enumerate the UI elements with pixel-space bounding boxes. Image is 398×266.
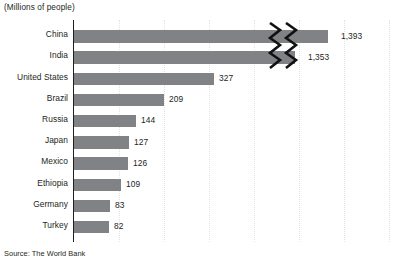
population-bar-chart: (Millions of people) China1,393India1,35…	[0, 0, 398, 266]
bar-row: Japan127	[0, 132, 398, 153]
bar	[74, 221, 109, 233]
bar	[74, 136, 129, 148]
bar	[74, 115, 136, 127]
bar-row: United States327	[0, 68, 398, 89]
bar-value-label: 209	[169, 94, 183, 104]
bar-value-label: 144	[141, 115, 155, 125]
category-label: China	[0, 29, 68, 39]
category-label: India	[0, 50, 68, 60]
chart-subtitle: (Millions of people)	[4, 3, 75, 12]
category-label: Mexico	[0, 156, 68, 166]
bar-value-label: 82	[114, 221, 123, 231]
bar-row: Germany83	[0, 196, 398, 217]
bar	[74, 51, 295, 63]
bar-value-label: 127	[134, 137, 148, 147]
bar-row: Turkey82	[0, 217, 398, 238]
bar	[74, 30, 328, 42]
bar	[74, 157, 128, 169]
bar-row: India1,353	[0, 47, 398, 68]
bar	[74, 200, 110, 212]
category-label: Japan	[0, 135, 68, 145]
bar	[74, 179, 121, 191]
bar-row: Russia144	[0, 111, 398, 132]
category-label: Ethiopia	[0, 178, 68, 188]
category-label: Turkey	[0, 220, 68, 230]
bar-row: Mexico126	[0, 153, 398, 174]
bar	[74, 73, 214, 85]
bar-row: Brazil209	[0, 90, 398, 111]
category-label: Russia	[0, 114, 68, 124]
category-label: United States	[0, 72, 68, 82]
bar-value-label: 109	[126, 179, 140, 189]
bar-value-label: 83	[115, 200, 124, 210]
bar-value-label: 1,393	[341, 31, 362, 41]
plot-area: China1,393India1,353United States327Braz…	[0, 20, 398, 244]
bar-value-label: 327	[219, 73, 233, 83]
bar-value-label: 126	[133, 158, 147, 168]
category-label: Brazil	[0, 93, 68, 103]
bar	[74, 94, 164, 106]
category-label: Germany	[0, 199, 68, 209]
bar-row: China1,393	[0, 26, 398, 47]
bar-value-label: 1,353	[308, 52, 329, 62]
source-note: Source: The World Bank	[4, 249, 85, 258]
bar-row: Ethiopia109	[0, 174, 398, 195]
